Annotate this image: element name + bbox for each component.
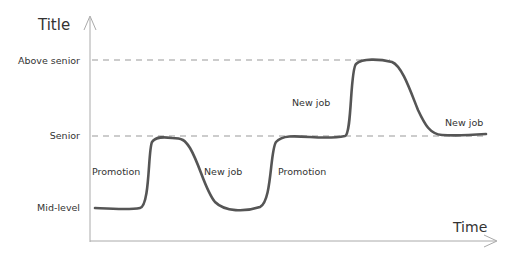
annotation-new-job-3: New job — [445, 117, 483, 128]
y-tick-mid-level: Mid-level — [37, 202, 80, 213]
annotation-promotion-2: Promotion — [278, 166, 326, 177]
annotation-promotion-1: Promotion — [92, 166, 140, 177]
y-tick-senior: Senior — [50, 130, 80, 141]
y-axis-title: Title — [37, 16, 70, 34]
annotation-new-job-1: New job — [204, 166, 242, 177]
x-axis — [90, 235, 497, 247]
x-axis-title: Time — [452, 219, 487, 235]
annotation-new-job-2: New job — [292, 97, 330, 108]
career-chart: Title Time Above senior Senior Mid-level… — [0, 0, 511, 259]
career-curve — [95, 60, 486, 211]
y-tick-above-senior: Above senior — [18, 55, 80, 66]
